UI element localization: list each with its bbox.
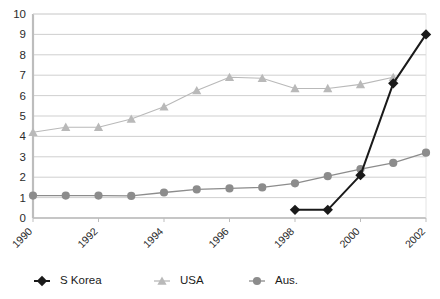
legend-label: Aus. bbox=[275, 274, 298, 286]
series-s-korea bbox=[290, 29, 431, 215]
y-tick-label: 1 bbox=[20, 192, 26, 204]
data-point-marker bbox=[290, 205, 300, 215]
data-point-marker bbox=[29, 191, 37, 199]
chart-legend: S KoreaUSAAus. bbox=[34, 274, 298, 286]
data-point-marker bbox=[160, 188, 168, 196]
y-tick-label: 3 bbox=[20, 151, 26, 163]
y-tick-label: 9 bbox=[20, 28, 26, 40]
y-tick-label: 8 bbox=[20, 49, 26, 61]
line-chart: 012345678910 199019921994199619982000200… bbox=[0, 0, 440, 299]
data-point-marker bbox=[291, 179, 299, 187]
series-usa bbox=[28, 73, 397, 136]
y-tick-label: 4 bbox=[20, 130, 27, 142]
data-point-marker bbox=[422, 149, 430, 157]
x-tick-label: 2002 bbox=[402, 225, 427, 250]
chart-canvas: 012345678910 199019921994199619982000200… bbox=[0, 0, 440, 299]
x-tick-label: 1994 bbox=[140, 225, 165, 250]
x-tick-label: 1992 bbox=[75, 225, 100, 250]
y-tick-label: 10 bbox=[13, 8, 26, 20]
x-axis-tick-labels: 1990199219941996199820002002 bbox=[9, 225, 427, 250]
x-tick-label: 1998 bbox=[271, 225, 296, 250]
data-point-marker bbox=[94, 191, 102, 199]
data-point-marker bbox=[258, 183, 266, 191]
y-tick-label: 2 bbox=[20, 171, 26, 183]
data-point-marker bbox=[421, 29, 431, 39]
y-tick-label: 6 bbox=[20, 90, 26, 102]
y-tick-label: 0 bbox=[20, 212, 26, 224]
x-tick-label: 2000 bbox=[337, 225, 362, 250]
y-tick-label: 7 bbox=[20, 69, 26, 81]
legend-label: S Korea bbox=[60, 274, 102, 286]
data-point-marker bbox=[159, 102, 168, 110]
y-tick-label: 5 bbox=[20, 110, 26, 122]
data-point-marker bbox=[192, 86, 201, 94]
data-point-marker bbox=[253, 277, 261, 285]
data-point-marker bbox=[37, 276, 47, 286]
data-point-marker bbox=[127, 192, 135, 200]
legend-label: USA bbox=[180, 274, 204, 286]
data-point-marker bbox=[193, 185, 201, 193]
data-point-marker bbox=[324, 172, 332, 180]
data-point-marker bbox=[389, 159, 397, 167]
x-tick-label: 1990 bbox=[9, 225, 34, 250]
x-tick-label: 1996 bbox=[206, 225, 231, 250]
series-line bbox=[33, 77, 393, 132]
series-line bbox=[295, 34, 426, 209]
series-aus bbox=[29, 149, 430, 200]
data-point-marker bbox=[225, 184, 233, 192]
data-point-marker bbox=[62, 191, 70, 199]
y-axis-tick-labels: 012345678910 bbox=[13, 8, 26, 224]
